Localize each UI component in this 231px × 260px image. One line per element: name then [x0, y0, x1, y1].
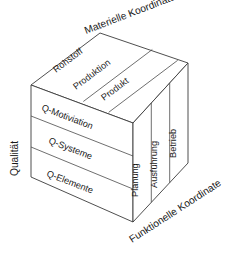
right-cell-label-ausfuehrung: Ausführung: [149, 141, 159, 188]
right-cell-label-betrieb: Betrieb: [168, 129, 178, 158]
right-cell-label-planung: Planung: [130, 163, 140, 197]
quality-cube-diagram: Rohstoff Produktion Produkt Q-Motiviatio…: [0, 0, 231, 260]
axis-label-qualitaet: Qualität: [9, 141, 20, 176]
axis-label-materielle-koordinate: Materielle Koordinate: [83, 0, 177, 36]
cube-canvas: Rohstoff Produktion Produkt Q-Motiviatio…: [0, 0, 231, 260]
